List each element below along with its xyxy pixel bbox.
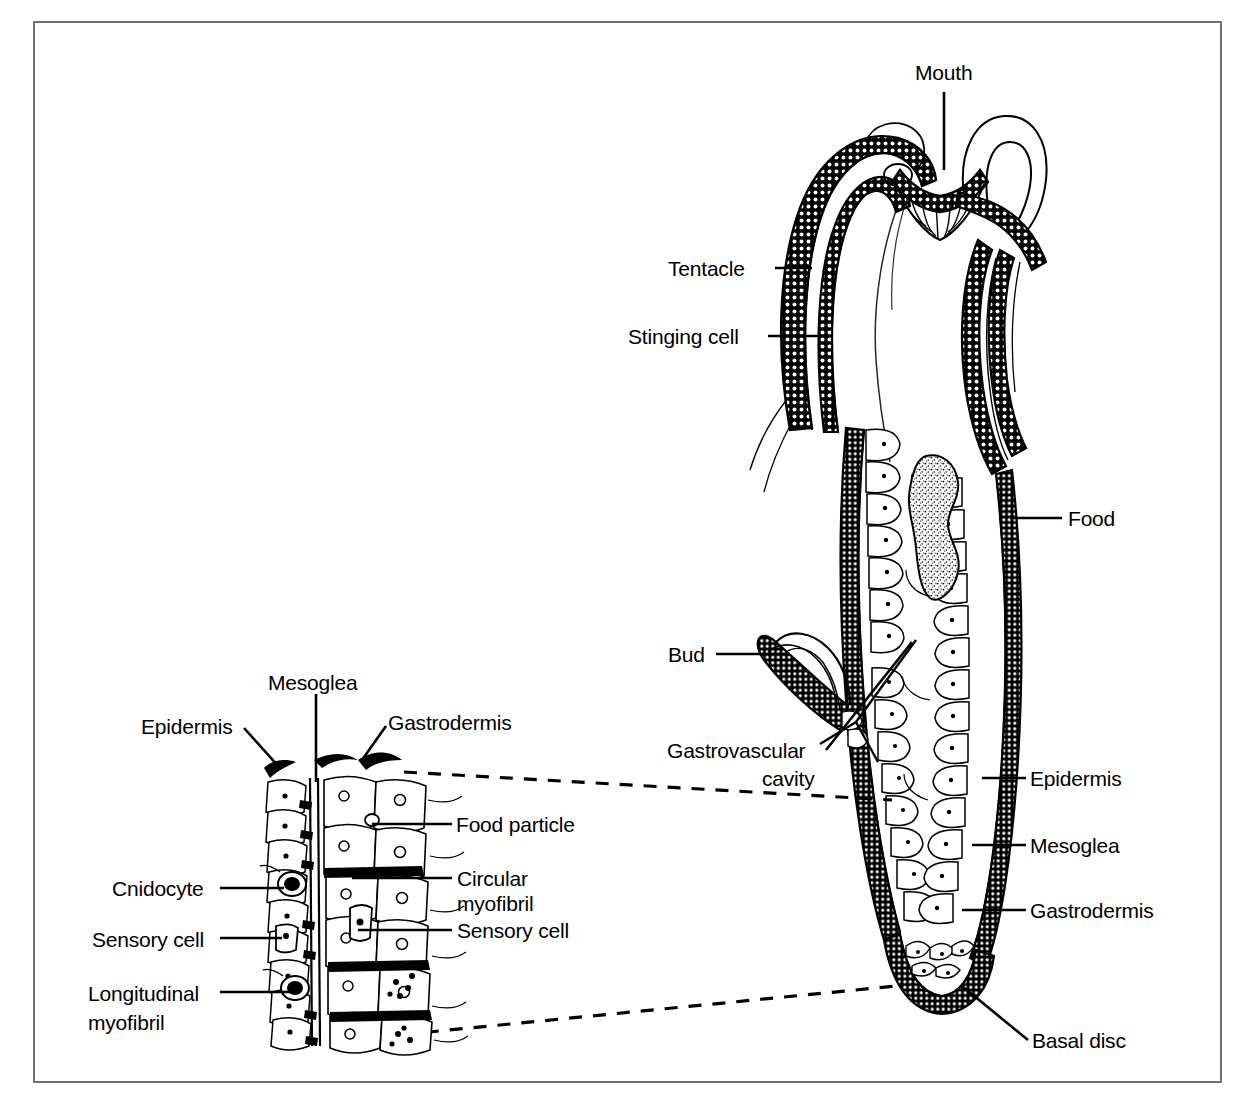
- epidermis-brace-mark: [264, 760, 296, 778]
- label-mesoglea-main: Mesoglea: [1030, 834, 1120, 857]
- label-food: Food: [1068, 507, 1115, 530]
- label-food-particle: Food particle: [456, 813, 575, 836]
- leader-inset-epidermis: [244, 728, 280, 768]
- leader-basal-disc: [962, 986, 1028, 1040]
- label-tentacle: Tentacle: [668, 257, 745, 280]
- label-epidermis-main: Epidermis: [1030, 767, 1122, 790]
- label-cnidocyte: Cnidocyte: [112, 877, 204, 900]
- label-mouth: Mouth: [915, 61, 972, 84]
- inset-mesoglea-band: [310, 778, 312, 1046]
- magnification-connectors: [378, 772, 896, 1037]
- label-circular-line2: myofibril: [457, 892, 533, 915]
- label-circular-line1: Circular: [457, 867, 528, 890]
- label-longitudinal-line1: Longitudinal: [88, 982, 199, 1005]
- sensory-cell-gastrodermis: [350, 905, 372, 941]
- label-basal-disc: Basal disc: [1032, 1029, 1126, 1052]
- body-wall-inset: [220, 694, 468, 1055]
- hydra-diagram: Mouth Tentacle Stinging cell Food Bud Ga…: [0, 0, 1245, 1098]
- label-stinging-cell: Stinging cell: [628, 325, 739, 348]
- label-gastrodermis-main: Gastrodermis: [1030, 899, 1154, 922]
- label-bud: Bud: [668, 643, 705, 666]
- gastrodermis-brace-mark-left: [314, 754, 358, 768]
- label-gastrovascular-line2: cavity: [762, 767, 815, 790]
- label-longitudinal-line2: myofibril: [88, 1011, 164, 1034]
- label-inset-mesoglea: Mesoglea: [268, 671, 358, 694]
- figure-root: Mouth Tentacle Stinging cell Food Bud Ga…: [0, 0, 1245, 1098]
- label-sensory-cell-right: Sensory cell: [457, 919, 569, 942]
- dashed-line-lower: [378, 986, 896, 1037]
- dashed-line-upper: [404, 772, 892, 800]
- label-gastrovascular-line1: Gastrovascular: [667, 739, 806, 762]
- label-sensory-cell-left: Sensory cell: [92, 928, 204, 951]
- hydra-whole-animal: [716, 92, 1062, 1040]
- label-inset-gastrodermis: Gastrodermis: [388, 711, 512, 734]
- label-inset-epidermis: Epidermis: [141, 715, 233, 738]
- tentacle-right-inner: [962, 240, 1026, 474]
